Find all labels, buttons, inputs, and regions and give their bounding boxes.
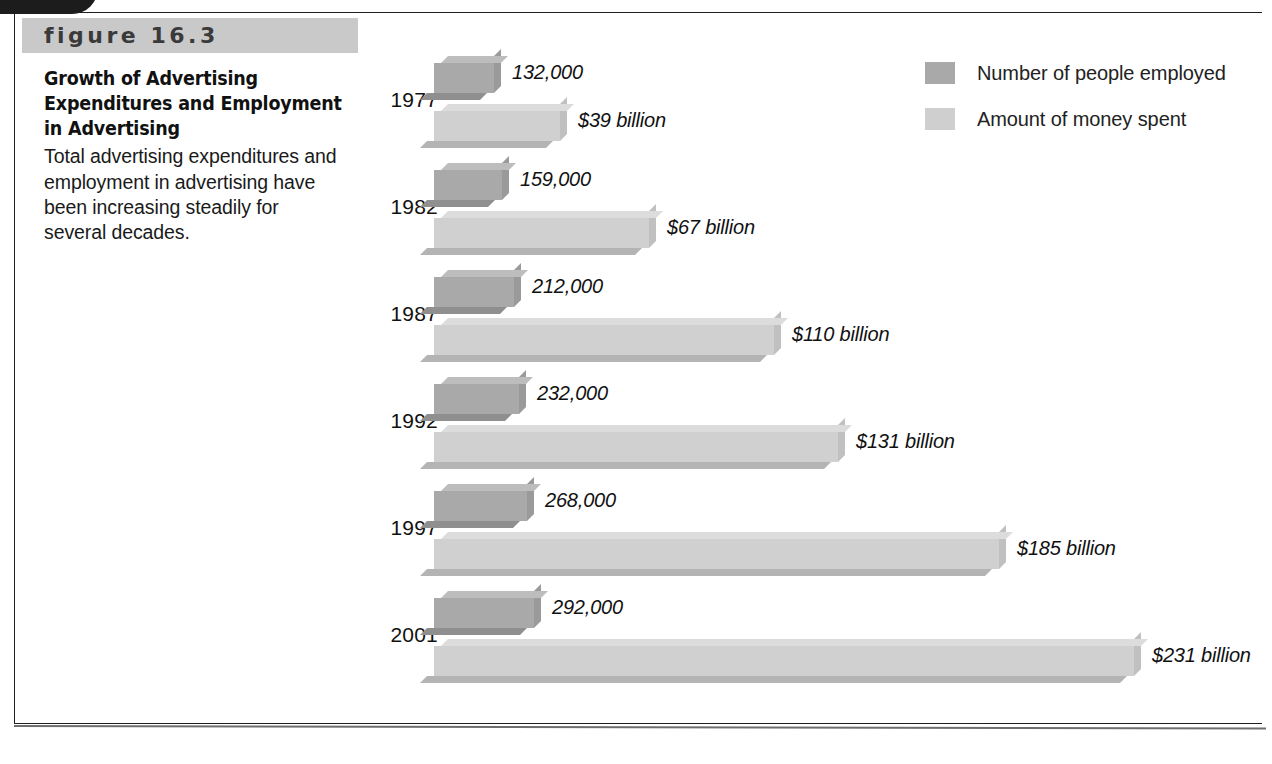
bar-face-face [434, 277, 514, 307]
bar-value-spending: $67 billion [667, 216, 755, 239]
bar-bottom-face [420, 569, 992, 576]
bar-face-face [434, 170, 502, 200]
bar-chart: 1977132,000$39 billion1982159,000$67 bil… [0, 0, 1272, 764]
bar-top-face [441, 532, 1013, 539]
bar-value-spending: $39 billion [578, 109, 666, 132]
bar-value-employment: 159,000 [520, 168, 591, 191]
bar-bottom-face [420, 93, 487, 100]
legend-swatch-employment [925, 62, 955, 84]
year-label: 1977 [390, 88, 438, 112]
bar-value-employment: 232,000 [537, 382, 608, 405]
bar-top-face [441, 211, 663, 218]
bar-bottom-face [420, 521, 520, 528]
year-group: 1997268,000$185 billion [390, 484, 1250, 580]
bar-bottom-face [420, 414, 512, 421]
bar-value-employment: 292,000 [552, 596, 623, 619]
bar-top-face [441, 377, 533, 384]
bar-face-face [434, 491, 527, 521]
year-group: 1992232,000$131 billion [390, 377, 1250, 473]
bar-top-face [441, 318, 788, 325]
bar-face-face [434, 325, 774, 355]
bar-bottom-face [420, 355, 767, 362]
year-group: 2001292,000$231 billion [390, 591, 1250, 687]
bar-value-employment: 132,000 [512, 61, 583, 84]
year-label: 1982 [390, 195, 438, 219]
bar-face-face [434, 432, 838, 462]
bar-face-face [434, 539, 999, 569]
legend-item-spending: Amount of money spent [925, 102, 1226, 136]
bar-top-face [441, 591, 548, 598]
bar-bottom-face [420, 248, 642, 255]
bar-face-face [434, 598, 534, 628]
year-label: 1992 [390, 409, 438, 433]
bar-value-employment: 268,000 [545, 489, 616, 512]
bar-bottom-face [420, 676, 1127, 683]
bar-bottom-face [420, 462, 831, 469]
bar-bottom-face [420, 307, 507, 314]
year-group: 1982159,000$67 billion [390, 163, 1250, 259]
bar-value-spending: $131 billion [856, 430, 955, 453]
bar-top-face [441, 56, 508, 63]
bar-top-face [441, 163, 516, 170]
year-label: 1997 [390, 516, 438, 540]
bar-bottom-face [420, 141, 553, 148]
figure-page: figure 16.3 Growth of Advertising Expend… [0, 0, 1272, 764]
bar-face-face [434, 646, 1134, 676]
year-group: 1987212,000$110 billion [390, 270, 1250, 366]
legend-label-employment: Number of people employed [977, 62, 1226, 85]
legend-swatch-spending [925, 108, 955, 130]
bar-value-spending: $110 billion [792, 323, 889, 346]
year-label: 2001 [390, 623, 438, 647]
bar-value-employment: 212,000 [532, 275, 603, 298]
bar-top-face [441, 484, 541, 491]
bar-bottom-face [420, 628, 527, 635]
chart-legend: Number of people employed Amount of mone… [925, 56, 1226, 148]
legend-label-spending: Amount of money spent [977, 108, 1186, 131]
bar-face-face [434, 63, 494, 93]
bar-face-face [434, 218, 649, 248]
bar-top-face [441, 270, 528, 277]
bar-face-face [434, 384, 519, 414]
bar-top-face [441, 639, 1148, 646]
bar-top-face [441, 104, 574, 111]
bar-face-face [434, 111, 560, 141]
bar-value-spending: $231 billion [1152, 644, 1251, 667]
bar-top-face [441, 425, 852, 432]
bar-value-spending: $185 billion [1017, 537, 1116, 560]
year-label: 1987 [390, 302, 438, 326]
legend-item-employment: Number of people employed [925, 56, 1226, 90]
bar-bottom-face [420, 200, 495, 207]
